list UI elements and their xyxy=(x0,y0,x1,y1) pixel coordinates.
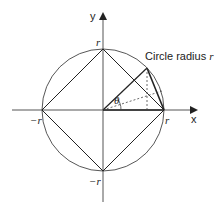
circle-diagram: y x r r −r −r θ Circle radius r xyxy=(0,0,219,213)
circle-title: Circle radius r xyxy=(145,50,214,62)
angle-label: θ xyxy=(114,94,120,106)
dashed-bisector xyxy=(103,91,162,110)
chord-line xyxy=(147,68,164,110)
circle-title-text: Circle radius xyxy=(145,50,209,62)
radius-line xyxy=(103,68,147,110)
tick-label-right: r xyxy=(165,114,170,126)
tick-label-top: r xyxy=(96,36,101,48)
circle-title-var: r xyxy=(209,50,214,62)
y-axis-label: y xyxy=(90,10,96,22)
x-axis-label: x xyxy=(191,113,197,125)
tick-label-left: −r xyxy=(30,114,42,126)
tick-label-bottom: −r xyxy=(89,175,101,187)
